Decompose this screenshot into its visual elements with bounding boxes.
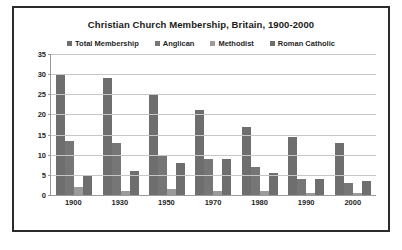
plot-area [50, 54, 376, 195]
bar[interactable] [315, 179, 324, 195]
gridline [51, 175, 376, 176]
y-tick-mark [48, 74, 51, 75]
bar-group [283, 54, 329, 195]
bar-group [51, 54, 97, 195]
y-tick-mark [48, 114, 51, 115]
bar[interactable] [176, 163, 185, 195]
legend-item[interactable]: Roman Catholic [270, 39, 335, 48]
y-tick-label: 35 [38, 50, 46, 59]
y-axis: 05101520253035 [32, 54, 48, 195]
y-tick-mark [48, 195, 51, 196]
legend-label: Roman Catholic [278, 39, 335, 48]
x-tick-label: 1950 [143, 198, 190, 207]
chart-frame: Christian Church Membership, Britain, 19… [12, 6, 390, 232]
x-tick-label: 1990 [283, 198, 330, 207]
bar[interactable] [362, 181, 371, 195]
bar[interactable] [222, 159, 231, 195]
gridline [51, 54, 376, 55]
y-tick-mark [48, 135, 51, 136]
bar[interactable] [74, 187, 83, 195]
bar[interactable] [335, 143, 344, 195]
bar[interactable] [112, 143, 121, 195]
y-tick-label: 20 [38, 110, 46, 119]
bar-group [97, 54, 143, 195]
gridline [51, 195, 376, 196]
x-tick-label: 1970 [190, 198, 237, 207]
y-tick-label: 30 [38, 70, 46, 79]
chart-legend: Total MembershipAnglicanMethodistRoman C… [14, 39, 388, 48]
bar[interactable] [251, 167, 260, 195]
chart-title: Christian Church Membership, Britain, 19… [14, 19, 388, 30]
legend-item[interactable]: Methodist [210, 39, 253, 48]
legend-swatch-icon [67, 41, 72, 46]
x-axis: 1900193019501970198019902000 [50, 198, 376, 207]
gridline [51, 155, 376, 156]
y-tick-label: 5 [42, 170, 46, 179]
y-tick-mark [48, 54, 51, 55]
legend-item[interactable]: Anglican [155, 39, 195, 48]
bar[interactable] [344, 183, 353, 195]
x-tick-label: 2000 [329, 198, 376, 207]
y-tick-mark [48, 155, 51, 156]
legend-label: Anglican [163, 39, 195, 48]
legend-label: Total Membership [75, 39, 139, 48]
gridline [51, 94, 376, 95]
y-tick-label: 25 [38, 90, 46, 99]
y-tick-mark [48, 175, 51, 176]
bar-group [237, 54, 283, 195]
legend-swatch-icon [210, 41, 215, 46]
bar[interactable] [269, 173, 278, 195]
bar[interactable] [297, 179, 306, 195]
x-tick-label: 1930 [97, 198, 144, 207]
gridline [51, 114, 376, 115]
y-tick-label: 0 [42, 191, 46, 200]
legend-swatch-icon [155, 41, 160, 46]
bar-group [330, 54, 376, 195]
legend-item[interactable]: Total Membership [67, 39, 139, 48]
x-tick-label: 1900 [50, 198, 97, 207]
bar-group [144, 54, 190, 195]
plot-wrapper: 05101520253035 1900193019501970198019902… [32, 54, 376, 206]
bar[interactable] [288, 137, 297, 195]
bars-layer [51, 54, 376, 195]
gridline [51, 135, 376, 136]
bar[interactable] [242, 127, 251, 195]
y-tick-label: 15 [38, 130, 46, 139]
bar[interactable] [65, 141, 74, 195]
legend-swatch-icon [270, 41, 275, 46]
bar[interactable] [204, 159, 213, 195]
x-tick-label: 1980 [236, 198, 283, 207]
y-tick-label: 10 [38, 150, 46, 159]
bar[interactable] [149, 94, 158, 195]
bar[interactable] [83, 175, 92, 195]
legend-label: Methodist [218, 39, 253, 48]
bar[interactable] [103, 78, 112, 195]
bar[interactable] [195, 110, 204, 195]
bar-group [190, 54, 236, 195]
y-tick-mark [48, 94, 51, 95]
gridline [51, 74, 376, 75]
